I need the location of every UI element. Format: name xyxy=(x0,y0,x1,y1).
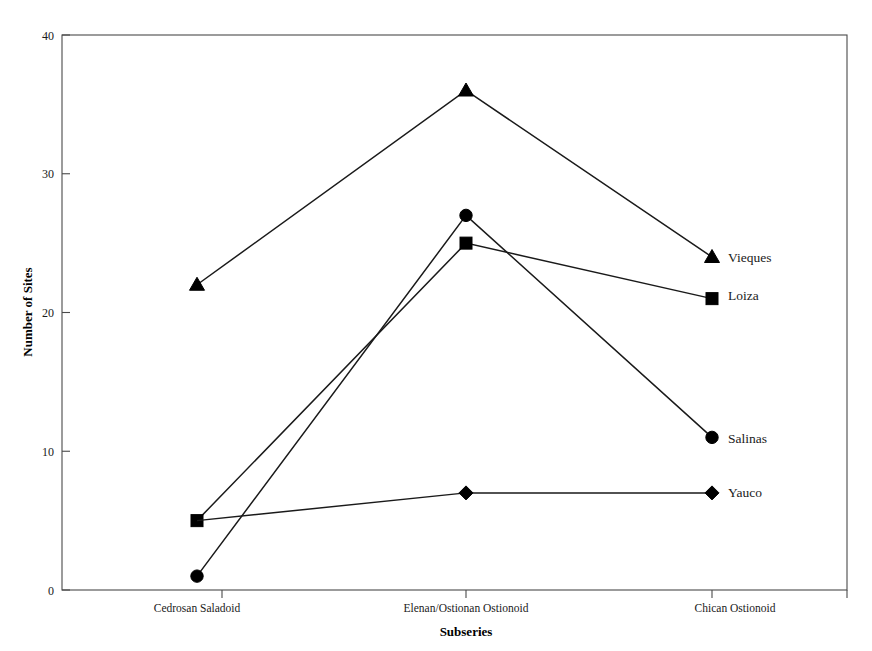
series-line-salinas xyxy=(197,215,712,576)
x-axis-title: Subseries xyxy=(440,624,493,639)
y-tick-label-30: 30 xyxy=(42,167,54,181)
series-label-vieques: Vieques xyxy=(728,250,771,265)
series-line-yauco xyxy=(197,493,712,521)
data-point-salinas-0 xyxy=(191,570,203,582)
data-point-loiza-1 xyxy=(460,237,472,249)
chart-figure: 0 10 20 30 40 Number of Sites Cedrosan S… xyxy=(0,0,872,651)
y-tick-label-40: 40 xyxy=(42,29,54,43)
x-axis-ticks xyxy=(222,590,847,598)
series-label-loiza: Loiza xyxy=(728,288,759,303)
data-point-yauco-2 xyxy=(705,486,719,500)
x-category-label-2: Chican Ostionoid xyxy=(695,602,776,614)
data-point-yauco-1 xyxy=(459,486,473,500)
series-vieques xyxy=(190,83,720,290)
series-salinas xyxy=(191,209,718,582)
y-tick-label-0: 0 xyxy=(48,584,54,598)
data-point-loiza-2 xyxy=(706,293,718,305)
series-label-salinas: Salinas xyxy=(728,431,767,446)
y-tick-label-10: 10 xyxy=(42,445,54,459)
data-point-vieques-0 xyxy=(190,277,205,290)
line-chart: 0 10 20 30 40 Number of Sites Cedrosan S… xyxy=(0,0,872,651)
series-line-loiza xyxy=(197,243,712,521)
series-layer xyxy=(190,83,720,582)
data-point-vieques-2 xyxy=(705,250,720,263)
x-category-label-1: Elenan/Ostionan Ostionoid xyxy=(404,602,529,614)
data-point-salinas-1 xyxy=(460,209,472,221)
plot-area-border xyxy=(62,35,847,590)
y-axis-ticks xyxy=(62,35,70,590)
data-point-vieques-1 xyxy=(459,83,474,96)
series-loiza xyxy=(191,237,718,527)
series-yauco xyxy=(197,486,719,521)
y-axis-title: Number of Sites xyxy=(20,267,35,356)
series-label-yauco: Yauco xyxy=(728,485,762,500)
data-point-salinas-2 xyxy=(706,431,718,443)
y-tick-label-20: 20 xyxy=(42,306,54,320)
x-category-label-0: Cedrosan Saladoid xyxy=(154,602,241,614)
